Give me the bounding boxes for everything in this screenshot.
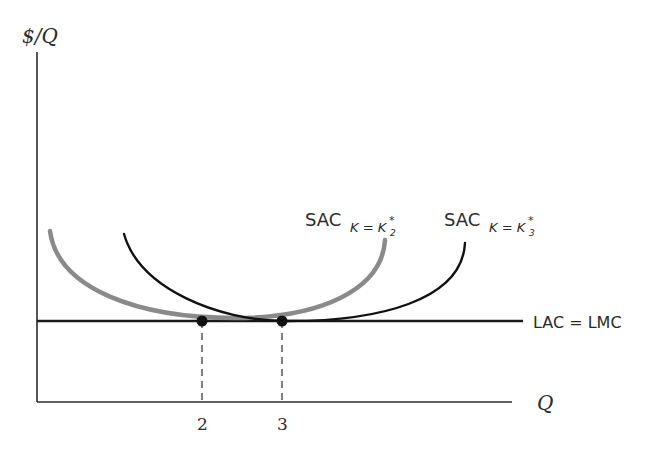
sac-k3-index: 3: [529, 228, 535, 238]
sac-k2-index: 2: [390, 228, 396, 238]
sac-k2-curve: [50, 231, 385, 318]
point-q2: [197, 316, 208, 327]
sac-k3-subscript: K = K: [489, 220, 527, 235]
sac-k2-sub: K = K: [350, 220, 388, 235]
point-q3: [277, 316, 288, 327]
sac-k3-star: *: [528, 214, 534, 227]
sac-k3-sub: K = K: [489, 220, 527, 235]
tick-label-2: 2: [197, 414, 208, 434]
cost-curves-diagram: $/Q Q 2 3 LAC = LMC SAC K = K * 2 SAC K …: [0, 0, 660, 449]
sac-k3-label: SAC: [444, 209, 480, 230]
sac-k2-label: SAC: [305, 209, 341, 230]
tick-label-3: 3: [277, 414, 288, 434]
sac-k3-main: SAC: [444, 209, 480, 230]
x-axis-label: Q: [537, 391, 553, 415]
sac-k3-curve: [124, 234, 465, 321]
sac-k2-main: SAC: [305, 209, 341, 230]
sac-k2-subscript: K = K: [350, 220, 388, 235]
y-axis-label: $/Q: [22, 24, 58, 48]
sac-k2-star: *: [389, 214, 395, 227]
lac-lmc-label: LAC = LMC: [533, 313, 622, 332]
